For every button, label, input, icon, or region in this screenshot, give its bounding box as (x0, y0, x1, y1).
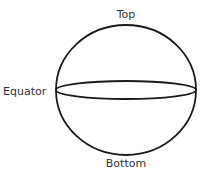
sphere-outline (56, 25, 196, 155)
top-label: Top (117, 9, 136, 21)
bottom-label: Bottom (106, 158, 146, 170)
equator-ellipse (56, 81, 196, 99)
equator-label: Equator (3, 86, 46, 98)
